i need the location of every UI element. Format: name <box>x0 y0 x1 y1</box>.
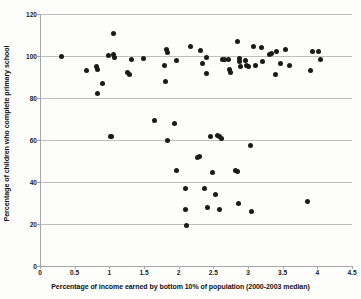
data-point <box>217 207 222 212</box>
data-point <box>210 170 215 175</box>
data-point <box>84 68 89 73</box>
data-point <box>235 169 240 174</box>
data-point <box>283 47 288 52</box>
y-tick-mark <box>36 14 40 15</box>
x-tick-label: 1 <box>94 269 124 276</box>
data-point <box>204 71 209 76</box>
data-point <box>259 45 264 50</box>
data-point <box>198 48 203 53</box>
data-point <box>213 192 218 197</box>
data-point <box>318 57 323 62</box>
data-point <box>204 55 209 60</box>
x-tick-mark <box>352 266 353 269</box>
data-point <box>112 55 117 60</box>
y-tick-label: 100 <box>17 53 37 60</box>
x-tick-label: 4.5 <box>337 269 361 276</box>
data-point <box>174 58 179 63</box>
data-point <box>95 67 100 72</box>
data-point <box>152 118 157 123</box>
data-point <box>260 59 265 64</box>
x-tick-label: 2.5 <box>198 269 228 276</box>
y-tick-mark <box>36 140 40 141</box>
data-point <box>188 44 193 49</box>
data-point <box>163 79 168 84</box>
data-point <box>109 134 114 139</box>
x-tick-label: 3.5 <box>268 269 298 276</box>
data-point <box>106 53 111 58</box>
gridline-y <box>41 56 352 57</box>
x-tick-mark <box>75 266 76 269</box>
data-point <box>243 58 248 63</box>
y-tick-mark <box>36 98 40 99</box>
x-tick-mark <box>40 266 41 269</box>
x-tick-label: 3 <box>233 269 263 276</box>
data-point <box>165 138 170 143</box>
x-tick-label: 0 <box>25 269 55 276</box>
data-point <box>183 186 188 191</box>
y-tick-label: 120 <box>17 11 37 18</box>
data-point <box>246 64 251 69</box>
data-point <box>205 205 210 210</box>
data-point <box>236 201 241 206</box>
x-axis-tick-labels: 00.511.522.533.544.5 <box>0 269 361 281</box>
data-point <box>162 63 167 68</box>
data-point <box>274 49 279 54</box>
x-tick-mark <box>213 266 214 269</box>
data-point <box>226 57 231 62</box>
x-tick-mark <box>179 266 180 269</box>
data-point <box>165 50 170 55</box>
plot-area <box>40 14 352 266</box>
data-point <box>59 54 64 59</box>
data-point <box>273 72 278 77</box>
data-point <box>308 68 313 73</box>
data-point <box>111 31 116 36</box>
data-point <box>248 143 253 148</box>
data-point <box>202 186 207 191</box>
x-tick-mark <box>144 266 145 269</box>
data-point <box>316 49 321 54</box>
scatter-chart: Percentage of children who complete prim… <box>0 0 361 299</box>
y-tick-label: 20 <box>17 221 37 228</box>
y-tick-mark <box>36 182 40 183</box>
data-point <box>172 121 177 126</box>
data-point <box>278 61 283 66</box>
x-tick-label: 2 <box>164 269 194 276</box>
data-point <box>141 56 146 61</box>
data-point <box>249 209 254 214</box>
data-point <box>183 207 188 212</box>
x-tick-mark <box>317 266 318 269</box>
y-tick-mark <box>36 224 40 225</box>
gridline-y <box>41 14 352 15</box>
y-axis-title-text: Percentage of children who complete prim… <box>3 45 12 221</box>
data-point <box>228 70 233 75</box>
data-point <box>197 154 202 159</box>
x-axis-title: Percentage of income earned by bottom 10… <box>0 283 361 290</box>
x-axis-line <box>40 266 352 267</box>
data-point <box>208 134 213 139</box>
x-tick-label: 0.5 <box>60 269 90 276</box>
data-point <box>129 57 134 62</box>
gridline-y <box>41 140 352 141</box>
data-point <box>100 81 105 86</box>
data-point <box>235 39 240 44</box>
data-point <box>305 199 310 204</box>
y-tick-mark <box>36 56 40 57</box>
data-point <box>237 59 242 64</box>
data-point <box>238 64 243 69</box>
y-tick-label: 80 <box>17 95 37 102</box>
y-tick-label: 60 <box>17 137 37 144</box>
y-axis-tick-labels: 020406080100120 <box>14 0 37 299</box>
gridline-y <box>41 182 352 183</box>
data-point <box>200 61 205 66</box>
data-point <box>174 168 179 173</box>
x-tick-mark <box>283 266 284 269</box>
data-point <box>310 49 315 54</box>
data-point <box>287 63 292 68</box>
y-axis-title: Percentage of children who complete prim… <box>0 0 14 266</box>
x-tick-label: 4 <box>302 269 332 276</box>
data-point <box>184 223 189 228</box>
data-point <box>127 72 132 77</box>
gridline-y <box>41 224 352 225</box>
gridline-y <box>41 98 352 99</box>
y-tick-label: 40 <box>17 179 37 186</box>
